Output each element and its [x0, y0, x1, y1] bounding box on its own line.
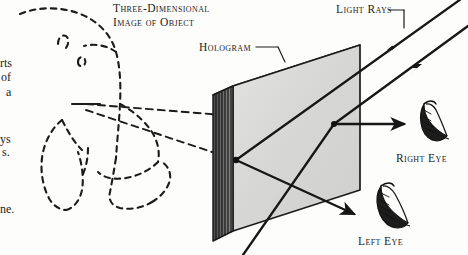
label-three-dimensional-image: Three-Dimensional Image of Object	[113, 2, 210, 29]
label-hologram: Hologram	[199, 41, 251, 55]
incoming-ray-arrowheads	[385, 40, 424, 74]
edge-text-fragment-2: of	[1, 71, 11, 84]
left-eye-icon	[377, 183, 410, 228]
edge-text-fragment-6: ne.	[0, 203, 14, 216]
hologram-diagram: Three-Dimensional Image of Object Hologr…	[0, 0, 468, 255]
label-light-rays: Light Rays	[336, 3, 392, 17]
label-left-eye: Left Eye	[358, 235, 403, 249]
dot-left-eye-origin	[233, 157, 239, 163]
plate-front-face	[233, 45, 360, 231]
label-right-eye: Right Eye	[396, 152, 447, 166]
dot-right-eye-origin	[331, 121, 337, 127]
diagram-artwork	[0, 0, 468, 255]
label-object-line2: Image of Object	[113, 16, 194, 28]
edge-text-fragment-5: s.	[2, 146, 10, 159]
hologram-leader-drop	[278, 47, 285, 62]
edge-text-fragment-1: rts	[0, 57, 12, 70]
label-object-line1: Three-Dimensional	[113, 2, 210, 14]
edge-text-fragment-3: a	[6, 86, 11, 99]
right-eye-icon	[421, 101, 449, 141]
